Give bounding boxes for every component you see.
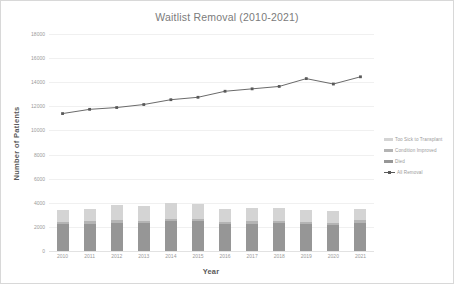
x-axis-tick-label: 2021: [355, 253, 366, 259]
line-marker: [305, 77, 308, 80]
line-path: [63, 77, 361, 114]
line-marker: [169, 98, 172, 101]
chart-container: Waitlist Removal (2010-2021) Number of P…: [0, 0, 454, 284]
x-axis-tick-label: 2018: [274, 253, 285, 259]
legend-item-label: Too Sick to Transplant: [395, 137, 442, 142]
legend-swatch-icon: [384, 149, 393, 152]
line-marker: [115, 106, 118, 109]
line-marker: [251, 87, 254, 90]
line-marker: [278, 85, 281, 88]
legend-item[interactable]: All Removal: [384, 168, 454, 177]
y-axis-tick-label: 18000: [5, 31, 45, 37]
y-axis-tick-label: 16000: [5, 55, 45, 61]
chart-legend: Too Sick to TransplantCondition Improved…: [384, 135, 454, 179]
y-axis-tick-label: 14000: [5, 79, 45, 85]
x-axis-tick-label: 2016: [219, 253, 230, 259]
line-marker: [142, 103, 145, 106]
x-axis-tick-label: 2010: [57, 253, 68, 259]
legend-item[interactable]: Died: [384, 157, 454, 166]
chart-title: Waitlist Removal (2010-2021): [1, 11, 453, 23]
x-axis-tick-label: 2020: [328, 253, 339, 259]
y-axis-tick-label: 4000: [5, 200, 45, 206]
legend-swatch-icon: [384, 138, 393, 141]
line-series-all-removal: [49, 34, 374, 251]
x-axis-tick-label: 2013: [138, 253, 149, 259]
y-axis-title-label: Number of Patients: [12, 106, 21, 180]
plot-area: 0200040006000800010000120001400016000180…: [49, 34, 374, 251]
legend-item-label: Died: [395, 159, 405, 164]
line-marker: [61, 112, 64, 115]
y-axis-tick-label: 0: [5, 248, 45, 254]
x-axis-tick-labels: 2010201120122013201420152016201720182019…: [49, 253, 374, 263]
gridline: [49, 251, 374, 252]
line-marker: [359, 75, 362, 78]
y-axis-tick-label: 12000: [5, 103, 45, 109]
legend-item-label: Condition Improved: [395, 148, 437, 153]
x-axis-tick-label: 2011: [84, 253, 95, 259]
legend-item[interactable]: Condition Improved: [384, 146, 454, 155]
x-axis-tick-label: 2017: [247, 253, 258, 259]
legend-line-marker-icon: [384, 170, 395, 175]
y-axis-tick-label: 8000: [5, 152, 45, 158]
legend-item-label: All Removal: [397, 170, 423, 175]
legend-swatch-icon: [384, 160, 393, 163]
x-axis-tick-label: 2014: [165, 253, 176, 259]
line-marker: [88, 108, 91, 111]
x-axis-tick-label: 2012: [111, 253, 122, 259]
x-axis-tick-label: 2015: [192, 253, 203, 259]
y-axis-title: Number of Patients: [9, 1, 23, 284]
y-axis-tick-label: 10000: [5, 127, 45, 133]
line-marker: [224, 90, 227, 93]
x-axis-title: Year: [46, 267, 376, 276]
line-marker: [197, 96, 200, 99]
y-axis-tick-label: 2000: [5, 224, 45, 230]
x-axis-tick-label: 2019: [301, 253, 312, 259]
y-axis-tick-label: 6000: [5, 176, 45, 182]
line-marker: [332, 83, 335, 86]
legend-item[interactable]: Too Sick to Transplant: [384, 135, 454, 144]
